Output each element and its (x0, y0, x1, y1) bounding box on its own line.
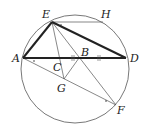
angle-dot (60, 24, 62, 26)
label-H: H (101, 9, 111, 20)
segment-AF (23, 58, 116, 105)
segment-AE (23, 22, 52, 58)
angle-dot (105, 100, 107, 102)
label-A: A (12, 53, 20, 64)
label-E: E (42, 9, 50, 20)
label-B: B (81, 47, 89, 58)
label-F: F (117, 105, 125, 116)
label-G: G (57, 83, 66, 94)
circumcircle (21, 15, 129, 123)
label-C: C (53, 62, 61, 73)
geometry-figure: E H A B C D G F (0, 0, 146, 132)
segment-GB (64, 58, 79, 79)
angle-dot (33, 60, 35, 62)
label-D: D (130, 53, 139, 64)
